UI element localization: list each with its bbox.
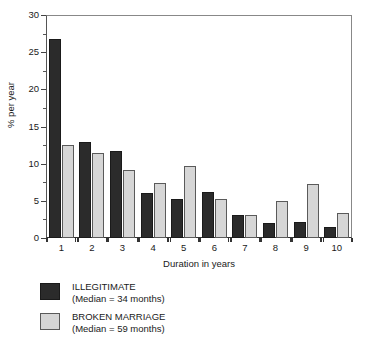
legend-item-illegitimate: ILLEGITIMATE (Median = 34 months)	[40, 281, 290, 307]
y-tick-label-30: 30	[28, 10, 39, 20]
x-tick-inner-a-9	[323, 238, 324, 242]
y-tick-label-20: 20	[28, 85, 39, 95]
x-tick-label-8: 8	[273, 243, 278, 253]
x-tick-end	[352, 238, 353, 242]
y-tick-label-25: 25	[28, 47, 39, 57]
legend-swatch-broken-marriage	[40, 313, 60, 330]
x-tick-label-10: 10	[331, 243, 342, 253]
plot-area	[46, 15, 352, 238]
legend-sublabel-broken-marriage: (Median = 59 months)	[72, 323, 165, 335]
x-tick-inner-a-5	[200, 238, 201, 242]
legend-item-broken-marriage: BROKEN MARRIAGE (Median = 59 months)	[40, 311, 290, 337]
legend-swatch-illegitimate	[40, 283, 60, 300]
y-tick-label-5: 5	[34, 196, 39, 206]
y-tick-label-0: 0	[34, 233, 39, 243]
chart-legend: ILLEGITIMATE (Median = 34 months) BROKEN…	[40, 281, 290, 341]
legend-label-illegitimate: ILLEGITIMATE	[72, 281, 165, 293]
legend-sublabel-illegitimate: (Median = 34 months)	[72, 293, 165, 305]
y-tick-label-10: 10	[28, 159, 39, 169]
x-tick-label-7: 7	[242, 243, 247, 253]
x-tick-inner-a-0	[47, 238, 48, 242]
x-tick-inner-a-1	[78, 238, 79, 242]
x-tick-label-4: 4	[150, 243, 155, 253]
x-tick-label-1: 1	[59, 243, 64, 253]
bar-chart: 051015202530 % per year 12345678910 Dura…	[0, 0, 367, 347]
x-tick-inner-a-8	[292, 238, 293, 242]
x-tick-inner-a-3	[139, 238, 140, 242]
y-tick-label-15: 15	[28, 122, 39, 132]
x-tick-label-3: 3	[120, 243, 125, 253]
x-tick-label-9: 9	[303, 243, 308, 253]
x-tick-inner-a-2	[108, 238, 109, 242]
x-tick-label-6: 6	[212, 243, 217, 253]
x-tick-inner-a-4	[170, 238, 171, 242]
x-tick-label-2: 2	[89, 243, 94, 253]
y-axis: 051015202530 % per year	[0, 0, 46, 260]
legend-label-broken-marriage: BROKEN MARRIAGE	[72, 311, 165, 323]
x-tick-inner-a-6	[231, 238, 232, 242]
x-tick-inner-a-7	[261, 238, 262, 242]
x-tick-label-5: 5	[181, 243, 186, 253]
x-axis-title: Duration in years	[46, 258, 352, 269]
y-axis-title: % per year	[6, 70, 16, 140]
